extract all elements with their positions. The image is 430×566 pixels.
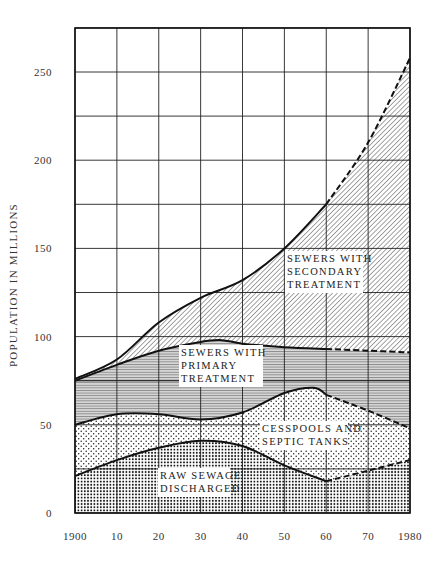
x-tick-label: 70 [362,530,374,542]
area-label: TREATMENT [287,279,361,290]
x-tick-label: 1980 [398,530,422,542]
x-tick-label: 10 [111,530,123,542]
y-axis-ticks: 050100150200250 [34,66,52,519]
y-tick-label: 150 [34,242,52,254]
x-tick-label: 1900 [63,530,87,542]
area-label: RAW SEWAGE [160,470,242,481]
y-tick-label: 100 [34,331,52,343]
y-tick-label: 50 [40,419,52,431]
area-label: PRIMARY [181,360,237,371]
stacked-area-chart: 050100150200250 1900102030405060701980 P… [0,0,430,566]
x-tick-label: 40 [237,530,249,542]
y-tick-label: 250 [34,66,52,78]
x-tick-label: 60 [320,530,332,542]
area-label: SECONDARY [287,266,362,277]
x-tick-label: 50 [278,530,290,542]
area-label: SEWERS WITH [287,253,373,264]
y-tick-label: 200 [34,154,52,166]
area-label: DISCHARGED [160,483,241,494]
y-axis-label: POPULATION IN MILLIONS [7,203,19,367]
x-tick-label: 20 [153,530,165,542]
x-tick-label: 30 [195,530,207,542]
area-label: TREATMENT [181,373,255,384]
x-axis-ticks: 1900102030405060701980 [63,530,422,542]
area-label: SEPTIC TANKS [262,436,349,447]
y-tick-label: 0 [46,507,52,519]
area-label: CESSPOOLS AND [262,423,362,434]
area-label: SEWERS WITH [181,347,267,358]
